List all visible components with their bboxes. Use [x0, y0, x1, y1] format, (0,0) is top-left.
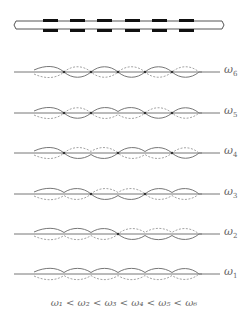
- node-point: [90, 193, 93, 196]
- mode-label-omega-3: ω3: [224, 185, 237, 200]
- mode-shape-dashed: [34, 274, 202, 280]
- mass-block-bottom: [152, 29, 167, 32]
- node-point: [144, 112, 147, 115]
- omega-symbol: ω: [224, 225, 233, 238]
- node-point: [117, 152, 120, 155]
- mode-label-omega-4: ω4: [224, 144, 237, 159]
- mode-label-omega-6: ω6: [224, 63, 237, 78]
- node-point: [90, 112, 93, 115]
- mode-index: 1: [233, 272, 237, 280]
- mass-block-bottom: [43, 29, 58, 32]
- node-point: [63, 71, 66, 74]
- mode-index: 6: [233, 70, 237, 78]
- node-point: [63, 112, 66, 115]
- mode-shape-solid: [34, 268, 202, 274]
- normal-modes-diagram: [0, 0, 248, 325]
- node-point: [171, 112, 174, 115]
- frequency-order-caption: ω₁ < ω₂ < ω₃ < ω₄ < ω₅ < ω₆: [0, 297, 248, 308]
- rod-outline: [14, 21, 224, 29]
- mass-block-bottom: [179, 29, 194, 32]
- mode-index: 4: [233, 151, 237, 159]
- node-point: [144, 71, 147, 74]
- mode-index: 3: [233, 192, 237, 200]
- mass-block-top: [152, 19, 167, 22]
- mode-index: 5: [233, 111, 237, 119]
- omega-symbol: ω: [224, 265, 233, 278]
- mass-block-top: [97, 19, 112, 22]
- node-point: [90, 71, 93, 74]
- mass-block-top: [179, 19, 194, 22]
- node-point: [117, 233, 120, 236]
- omega-symbol: ω: [224, 63, 233, 76]
- mode-label-omega-5: ω5: [224, 104, 237, 119]
- mass-block-bottom: [70, 29, 85, 32]
- mass-block-top: [43, 19, 58, 22]
- mode-label-omega-1: ω1: [224, 265, 237, 280]
- mass-block-bottom: [97, 29, 112, 32]
- node-point: [117, 71, 120, 74]
- mode-index: 2: [233, 232, 237, 240]
- mass-block-top: [125, 19, 140, 22]
- mass-block-top: [70, 19, 85, 22]
- node-point: [171, 71, 174, 74]
- omega-symbol: ω: [224, 144, 233, 157]
- node-point: [171, 152, 174, 155]
- omega-symbol: ω: [224, 185, 233, 198]
- node-point: [144, 193, 147, 196]
- node-point: [63, 152, 66, 155]
- mode-label-omega-2: ω2: [224, 225, 237, 240]
- omega-symbol: ω: [224, 104, 233, 117]
- mass-block-bottom: [125, 29, 140, 32]
